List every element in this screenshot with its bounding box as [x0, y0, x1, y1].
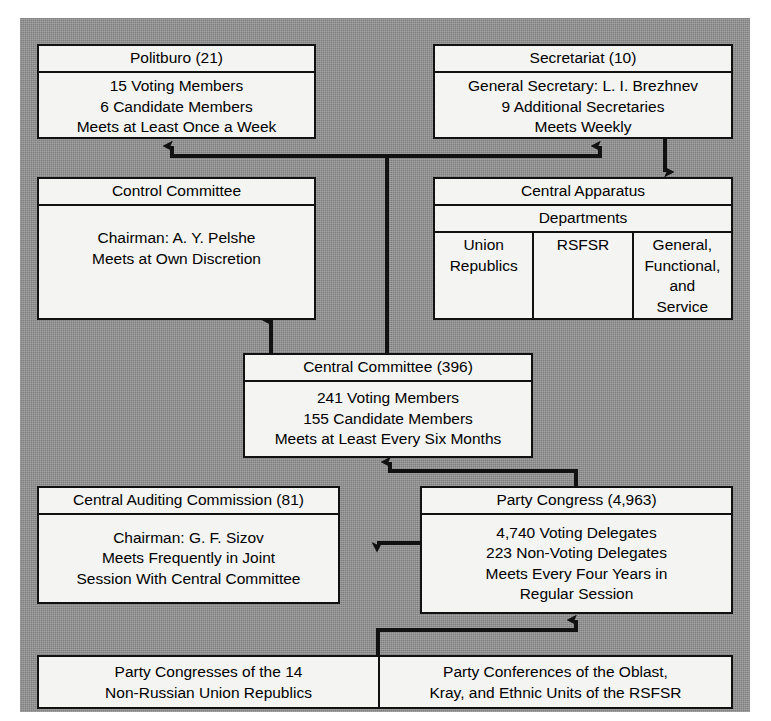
central-committee-line-2: 155 Candidate Members [303, 409, 473, 430]
secretariat-line-3: Meets Weekly [534, 117, 631, 138]
auditing-commission-line-3: Session With Central Committee [77, 569, 301, 590]
secretariat-body: General Secretary: L. I. Brezhnev 9 Addi… [435, 73, 731, 141]
connector-bus-to-politburo [172, 146, 387, 156]
department-general-line-3: and [669, 276, 695, 297]
central-committee-body: 241 Voting Members 155 Candidate Members… [245, 382, 531, 456]
department-rsfsr-line-1: RSFSR [557, 235, 610, 256]
republic-congresses-line-2: Non-Russian Union Republics [105, 682, 312, 703]
secretariat-title: Secretariat (10) [435, 46, 731, 73]
central-apparatus-title: Central Apparatus [435, 179, 731, 206]
central-apparatus-departments: Union Republics RSFSR General, Functiona… [435, 233, 731, 319]
department-union-republics[interactable]: Union Republics [435, 233, 534, 319]
box-central-auditing-commission[interactable]: Central Auditing Commission (81) Chairma… [37, 486, 340, 604]
central-apparatus-subtitle: Departments [435, 206, 731, 233]
central-committee-line-1: 241 Voting Members [317, 388, 459, 409]
politburo-title: Politburo (21) [39, 46, 314, 73]
auditing-commission-body: Chairman: G. F. Sizov Meets Frequently i… [39, 515, 338, 602]
central-committee-title: Central Committee (396) [245, 355, 531, 382]
department-rsfsr[interactable]: RSFSR [534, 233, 633, 319]
politburo-body: 15 Voting Members 6 Candidate Members Me… [39, 73, 314, 141]
box-control-committee[interactable]: Control Committee Chairman: A. Y. Pelshe… [37, 177, 316, 320]
republic-congresses-line-1: Party Congresses of the 14 [115, 661, 303, 682]
oblast-conferences-line-2: Kray, and Ethnic Units of the RSFSR [429, 682, 681, 703]
box-oblast-party-conferences[interactable]: Party Conferences of the Oblast, Kray, a… [380, 657, 731, 707]
party-congress-line-2: 223 Non-Voting Delegates [486, 543, 667, 564]
box-politburo[interactable]: Politburo (21) 15 Voting Members 6 Candi… [37, 44, 316, 139]
auditing-commission-line-2: Meets Frequently in Joint [102, 548, 275, 569]
department-union-republics-line-1: Union [463, 235, 504, 256]
connector-lower-bodies-to-party-congress [378, 620, 576, 655]
box-central-committee[interactable]: Central Committee (396) 241 Voting Membe… [243, 353, 533, 458]
box-central-apparatus[interactable]: Central Apparatus Departments Union Repu… [433, 177, 733, 320]
box-party-congress[interactable]: Party Congress (4,963) 4,740 Voting Dele… [420, 486, 733, 614]
control-committee-body: Chairman: A. Y. Pelshe Meets at Own Disc… [39, 206, 314, 318]
auditing-commission-line-1: Chairman: G. F. Sizov [113, 528, 264, 549]
box-secretariat[interactable]: Secretariat (10) General Secretary: L. I… [433, 44, 733, 139]
central-committee-line-3: Meets at Least Every Six Months [275, 429, 502, 450]
department-union-republics-line-2: Republics [450, 256, 518, 277]
department-general-line-4: Service [656, 297, 708, 318]
department-general-line-2: Functional, [644, 256, 720, 277]
politburo-line-1: 15 Voting Members [110, 76, 244, 97]
box-lower-party-bodies: Party Congresses of the 14 Non-Russian U… [37, 655, 733, 709]
politburo-line-3: Meets at Least Once a Week [77, 117, 277, 138]
org-chart: Politburo (21) 15 Voting Members 6 Candi… [0, 0, 771, 721]
auditing-commission-title: Central Auditing Commission (81) [39, 488, 338, 515]
department-general-functional-service[interactable]: General, Functional, and Service [634, 233, 731, 319]
party-congress-line-4: Regular Session [520, 584, 634, 605]
department-general-line-1: General, [653, 235, 712, 256]
party-congress-line-3: Meets Every Four Years in [486, 564, 668, 585]
control-committee-title: Control Committee [39, 179, 314, 206]
oblast-conferences-line-1: Party Conferences of the Oblast, [443, 661, 668, 682]
secretariat-line-1: General Secretary: L. I. Brezhnev [468, 76, 698, 97]
party-congress-body: 4,740 Voting Delegates 223 Non-Voting De… [422, 515, 731, 612]
party-congress-title: Party Congress (4,963) [422, 488, 731, 515]
control-committee-line-2: Meets at Own Discretion [92, 249, 261, 270]
box-republic-party-congresses[interactable]: Party Congresses of the 14 Non-Russian U… [39, 657, 380, 707]
control-committee-line-1: Chairman: A. Y. Pelshe [98, 228, 256, 249]
connector-bus-to-secretariat [387, 146, 600, 156]
party-congress-line-1: 4,740 Voting Delegates [496, 523, 656, 544]
politburo-line-2: 6 Candidate Members [100, 97, 253, 118]
secretariat-line-2: 9 Additional Secretaries [502, 97, 665, 118]
